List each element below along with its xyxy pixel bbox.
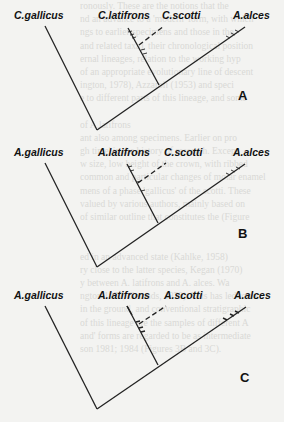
taxon-label: A.alces	[233, 289, 271, 301]
tree-branches	[45, 26, 245, 130]
taxon-label: C.scotti	[162, 9, 202, 21]
taxon-label: A.gallicus	[13, 146, 64, 158]
taxon-label: A.latifrons	[97, 146, 150, 158]
taxon-label: C.scotti	[164, 146, 204, 158]
tree-branches	[45, 163, 245, 267]
panel-letter: A	[238, 88, 248, 103]
taxon-label: C.latifrons	[98, 9, 150, 21]
panel-letter: B	[238, 226, 247, 241]
tree-branches	[45, 306, 246, 409]
taxon-label: A.scotti	[163, 289, 204, 301]
cladogram-panel-c: A.gallicus A.latifrons A.scotti A.alces …	[0, 275, 284, 422]
taxon-label: A.alces	[232, 9, 270, 21]
cladogram-panel-b: A.gallicus A.latifrons C.scotti A.alces …	[0, 135, 284, 275]
taxon-label: C.gallicus	[14, 9, 64, 21]
taxon-label: A.gallicus	[13, 289, 64, 301]
taxon-label: A.latifrons	[97, 289, 150, 301]
panel-letter: C	[240, 370, 250, 385]
synapomorphy-ticks	[127, 306, 239, 332]
cladogram-panel-a: C.gallicus C.latifrons C.scotti A.alces …	[0, 0, 284, 140]
taxon-label: A.alces	[232, 146, 270, 158]
